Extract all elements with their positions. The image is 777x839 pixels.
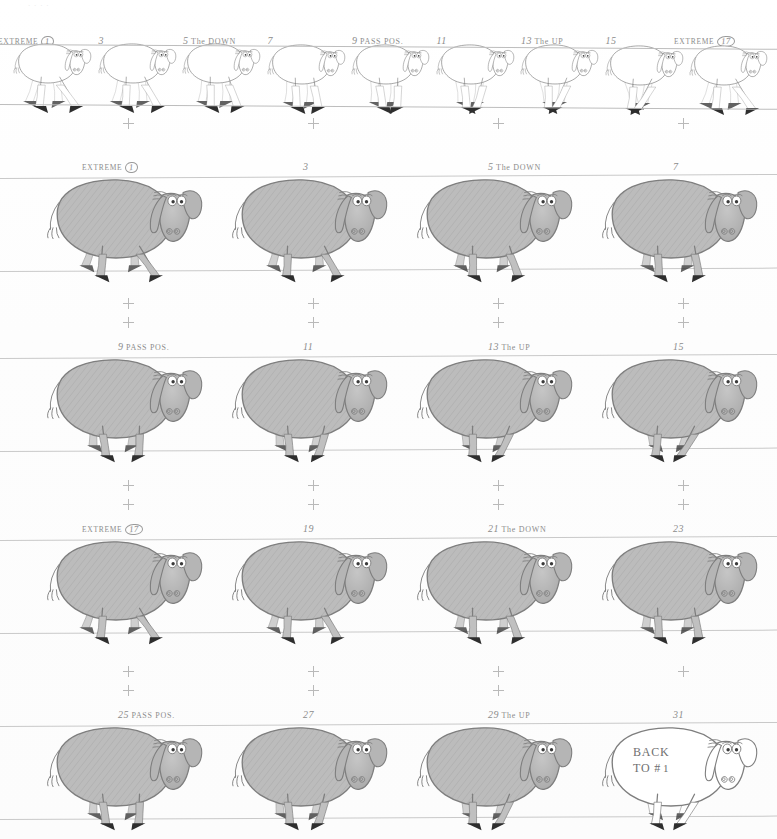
frame-label-note: PASS POS. (131, 711, 174, 720)
frame-label: 27 (303, 710, 314, 720)
frame-number: 21 (488, 523, 499, 534)
frame-13 (402, 354, 578, 453)
registration-cross (678, 499, 689, 510)
cell-label-13: 13 The UP (488, 336, 530, 354)
cell-label-17: EXTREME 17 (82, 518, 143, 536)
cell-label-15: 15 (673, 336, 684, 354)
frame-label: 15 (673, 342, 684, 352)
frame-number: 13 (488, 341, 499, 352)
frame-number: 3 (303, 161, 308, 172)
registration-cross (493, 118, 504, 129)
frame-27 (217, 722, 393, 821)
registration-cross (308, 685, 319, 696)
registration-cross (123, 666, 134, 677)
frame-19 (217, 536, 393, 635)
strip-frame-7 (260, 42, 348, 110)
cell-label-11: 11 (303, 336, 313, 354)
registration-cross (123, 298, 134, 309)
cell-label-25: 25 PASS POS. (118, 704, 175, 722)
registration-cross (308, 118, 319, 129)
frame-label: 11 (303, 342, 313, 352)
frame-3 (217, 174, 393, 273)
cell-label-27: 27 (303, 704, 314, 722)
cell-label-7: 7 (673, 156, 678, 174)
frame-label-prefix: EXTREME (82, 163, 122, 172)
registration-cross (678, 480, 689, 491)
frame-label: 5 The DOWN (488, 162, 541, 172)
frame-number: 25 (118, 709, 129, 720)
strip-frame-11 (429, 42, 517, 110)
frame-15 (587, 354, 763, 453)
frame-label-note: The UP (501, 711, 530, 720)
frame-label: 29 The UP (488, 710, 530, 720)
cell-label-1: EXTREME 1 (82, 156, 138, 174)
frame-number: 27 (303, 709, 314, 720)
frame-number: 29 (488, 709, 499, 720)
frame-label: EXTREME 17 (82, 524, 143, 534)
frame-label-note: The DOWN (501, 525, 546, 534)
registration-cross (308, 499, 319, 510)
registration-cross (123, 317, 134, 328)
strip-frame-17 (682, 43, 770, 111)
cell-label-19: 19 (303, 518, 314, 536)
registration-cross (308, 666, 319, 677)
cell-label-3: 3 (303, 156, 308, 174)
back-note-line1: BACK (633, 744, 670, 760)
registration-cross (493, 317, 504, 328)
frame-number: 15 (673, 341, 684, 352)
frame-label: 21 The DOWN (488, 524, 546, 534)
registration-cross (493, 666, 504, 677)
frame-number: 7 (673, 161, 678, 172)
frame-29 (402, 722, 578, 821)
registration-cross (123, 499, 134, 510)
registration-cross (493, 499, 504, 510)
registration-cross (123, 118, 134, 129)
frame-label: 31 (673, 710, 684, 720)
frame-number: 31 (673, 709, 684, 720)
frame-number: 23 (673, 523, 684, 534)
frame-label-prefix: EXTREME (82, 525, 122, 534)
frame-label: 7 (673, 162, 678, 172)
registration-cross (308, 298, 319, 309)
registration-cross (678, 666, 689, 677)
frame-label: 25 PASS POS. (118, 710, 175, 720)
frame-number: 5 (488, 161, 493, 172)
cell-label-21: 21 The DOWN (488, 518, 546, 536)
frame-label: 19 (303, 524, 314, 534)
registration-cross (308, 317, 319, 328)
registration-cross (493, 298, 504, 309)
row-4: BACKTO #1 (0, 726, 777, 823)
strip-frame-1 (6, 41, 94, 109)
strip-frame-9 (344, 42, 432, 110)
cell-label-31: 31 (673, 704, 684, 722)
cell-label-23: 23 (673, 518, 684, 536)
back-note-line2: TO #1 (633, 760, 670, 776)
frame-23 (587, 536, 763, 635)
strip-frame-15 (598, 43, 686, 111)
cell-label-9: 9 PASS POS. (118, 336, 169, 354)
frame-label-note: The DOWN (496, 163, 541, 172)
row-2 (0, 358, 777, 455)
frame-label: EXTREME 1 (82, 162, 138, 172)
registration-cross (493, 685, 504, 696)
cell-label-5: 5 The DOWN (488, 156, 541, 174)
registration-cross (678, 317, 689, 328)
strip-frame-5 (175, 41, 263, 109)
frame-25 (32, 722, 208, 821)
frame-21 (402, 536, 578, 635)
registration-cross (678, 298, 689, 309)
registration-cross (493, 480, 504, 491)
frame-number-circled: 1 (125, 162, 138, 174)
frame-9 (32, 354, 208, 453)
registration-cross (123, 685, 134, 696)
frame-1 (32, 174, 208, 273)
frame-31 (587, 722, 763, 821)
back-to-start-note: BACKTO #1 (633, 744, 670, 776)
row-3 (0, 540, 777, 637)
frame-label: 9 PASS POS. (118, 342, 169, 352)
frame-label-note: PASS POS. (126, 343, 169, 352)
registration-cross (678, 118, 689, 129)
frame-7 (587, 174, 763, 273)
strip-frame-3 (91, 41, 179, 109)
frame-label: 3 (303, 162, 308, 172)
